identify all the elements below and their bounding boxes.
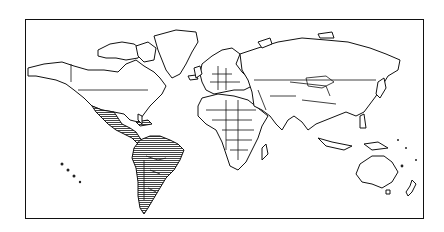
tasmania: [386, 190, 390, 194]
new-guinea: [364, 142, 388, 150]
baffin-island: [136, 42, 156, 62]
greenland: [154, 30, 198, 78]
indonesia: [318, 138, 352, 150]
pacific-island: [405, 147, 407, 149]
pacific-island: [73, 175, 76, 178]
pacific-island: [67, 169, 70, 172]
world-map: [26, 20, 424, 219]
philippines: [360, 114, 366, 128]
pacific-island: [79, 181, 81, 183]
pacific-island: [401, 165, 404, 168]
south-america: [132, 136, 184, 214]
australia: [356, 156, 398, 188]
pacific-islands: [61, 163, 64, 166]
pacific-island: [415, 159, 417, 161]
map-frame: #555555: [25, 19, 424, 219]
new-zealand: [406, 180, 416, 196]
pacific-island: [397, 139, 399, 141]
madagascar: [262, 144, 268, 160]
siberian-islands: [318, 32, 334, 38]
arctic-islands: [98, 42, 142, 60]
